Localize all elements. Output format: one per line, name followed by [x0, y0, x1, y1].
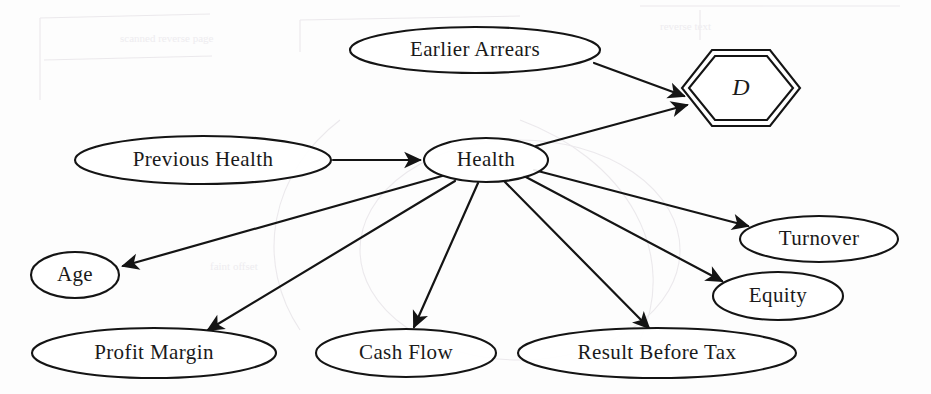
- diagram-canvas: scanned reverse page reverse text faint …: [0, 0, 931, 394]
- edge-health-to-cash-flow: [414, 183, 478, 327]
- edge-health-to-profit-margin: [208, 181, 455, 330]
- svg-text:scanned reverse page: scanned reverse page: [120, 32, 214, 44]
- node-result-before-tax[interactable]: Result Before Tax: [518, 328, 796, 378]
- node-equity-label: Equity: [749, 283, 807, 307]
- node-age-label: Age: [57, 262, 93, 286]
- svg-text:faint offset: faint offset: [210, 260, 258, 272]
- node-group: Earlier Arrears D Previous Health Health: [31, 27, 898, 378]
- node-earlier-arrears-label: Earlier Arrears: [410, 37, 540, 61]
- node-profit-margin[interactable]: Profit Margin: [32, 328, 276, 378]
- node-cash-flow-label: Cash Flow: [359, 340, 453, 364]
- edge-earlier-arrears-to-d: [594, 63, 684, 96]
- node-turnover[interactable]: Turnover: [740, 216, 898, 262]
- node-previous-health[interactable]: Previous Health: [75, 136, 331, 184]
- edge-group: [123, 63, 748, 330]
- node-health-label: Health: [457, 147, 515, 171]
- node-age[interactable]: Age: [31, 252, 119, 298]
- node-previous-health-label: Previous Health: [133, 147, 274, 171]
- svg-text:reverse text: reverse text: [660, 20, 711, 32]
- edge-health-to-equity: [524, 176, 722, 281]
- bayesian-network-graph: scanned reverse page reverse text faint …: [0, 0, 931, 394]
- node-turnover-label: Turnover: [779, 226, 860, 250]
- node-earlier-arrears[interactable]: Earlier Arrears: [350, 27, 600, 73]
- node-equity[interactable]: Equity: [713, 272, 843, 320]
- node-result-before-tax-label: Result Before Tax: [578, 340, 737, 364]
- edge-health-to-d: [536, 105, 687, 146]
- node-cash-flow[interactable]: Cash Flow: [316, 329, 496, 377]
- node-decision-d-label: D: [731, 74, 750, 100]
- node-profit-margin-label: Profit Margin: [94, 340, 214, 364]
- node-decision-d[interactable]: D: [682, 50, 800, 126]
- edge-health-to-age: [123, 176, 442, 266]
- node-health[interactable]: Health: [424, 138, 548, 182]
